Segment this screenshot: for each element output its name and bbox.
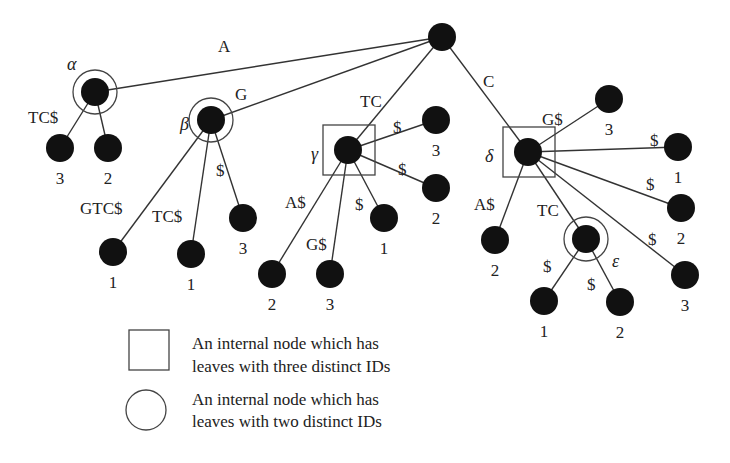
leaf-edge-label: $ bbox=[393, 118, 402, 137]
leaf-id-label: 1 bbox=[109, 273, 118, 292]
edge-delta bbox=[442, 37, 528, 152]
legend-square-icon bbox=[129, 330, 169, 370]
leaf-edge-label: $ bbox=[587, 275, 596, 294]
leaf-id-label: 1 bbox=[540, 322, 549, 341]
leaf-node bbox=[422, 106, 450, 134]
internal-node-gamma bbox=[334, 136, 362, 164]
leaf-id-label: 2 bbox=[616, 323, 625, 342]
greek-label-epsilon: ε bbox=[612, 251, 620, 271]
leaf-id-label: 2 bbox=[104, 169, 113, 188]
leaf-node bbox=[177, 240, 205, 268]
leaf-id-label: 3 bbox=[681, 296, 690, 315]
leaf-id-label: 2 bbox=[268, 295, 277, 314]
edge-epsilon bbox=[528, 152, 586, 239]
edge-alpha bbox=[95, 37, 442, 92]
leaf-edge-label: G$ bbox=[542, 110, 563, 129]
leaf-node bbox=[316, 260, 344, 288]
leaf-edge-label: $ bbox=[398, 160, 407, 179]
leaf-node bbox=[671, 261, 699, 289]
leaf-edge-label: TC$ bbox=[152, 207, 182, 226]
leaf-id-label: 2 bbox=[491, 261, 500, 280]
legend-circle-icon bbox=[126, 390, 166, 430]
suffix-tree-diagram: AGTCCTCTC$32GTC$1TC$1$3$3$2$1A$2G$3G$3$1… bbox=[0, 0, 730, 463]
greek-label-gamma: γ bbox=[311, 144, 319, 164]
leaf-node bbox=[46, 134, 74, 162]
labels: AGTCCTCTC$32GTC$1TC$1$3$3$2$1A$2G$3G$3$1… bbox=[28, 37, 689, 342]
leaf-node bbox=[422, 174, 450, 202]
legend-square-label-line1: An internal node which has bbox=[192, 334, 379, 353]
leaf-node bbox=[258, 260, 286, 288]
leaf-id-label: 2 bbox=[677, 229, 686, 248]
edge-label-beta: G bbox=[235, 85, 247, 104]
edge-leaf bbox=[272, 150, 348, 274]
leaf-id-label: 2 bbox=[432, 209, 441, 228]
edge-leaf bbox=[528, 152, 681, 208]
internal-node-epsilon bbox=[572, 225, 600, 253]
leaf-edge-label: $ bbox=[650, 131, 659, 150]
leaf-edge-label: GTC$ bbox=[80, 199, 123, 218]
edge-leaf bbox=[348, 150, 436, 188]
greek-label-alpha: α bbox=[67, 54, 77, 74]
leaf-node bbox=[99, 238, 127, 266]
leaf-id-label: 3 bbox=[56, 169, 65, 188]
edge-label-epsilon: TC bbox=[537, 201, 559, 220]
leaf-edge-label: A$ bbox=[474, 195, 495, 214]
edge-leaf bbox=[330, 150, 348, 274]
edges bbox=[60, 37, 685, 302]
internal-node-alpha bbox=[81, 78, 109, 106]
leaf-edge-label: $ bbox=[216, 161, 225, 180]
greek-label-beta: β bbox=[179, 114, 189, 134]
leaf-id-label: 3 bbox=[432, 141, 441, 160]
leaf-node bbox=[606, 288, 634, 316]
leaf-id-label: 3 bbox=[605, 120, 614, 139]
leaf-edge-label: A$ bbox=[285, 193, 306, 212]
leaf-node bbox=[595, 85, 623, 113]
legend-square-label-line2: leaves with three distinct IDs bbox=[192, 357, 390, 376]
root-node bbox=[428, 23, 456, 51]
edge-leaf bbox=[113, 120, 211, 252]
nodes bbox=[46, 23, 699, 316]
leaf-node bbox=[481, 226, 509, 254]
internal-node-delta bbox=[514, 138, 542, 166]
leaf-node bbox=[530, 287, 558, 315]
leaf-id-label: 1 bbox=[187, 275, 196, 294]
greek-label-delta: δ bbox=[485, 146, 494, 166]
leaf-edge-label: TC$ bbox=[28, 108, 58, 127]
leaf-id-label: 3 bbox=[239, 239, 248, 258]
edge-label-alpha: A bbox=[218, 37, 231, 56]
leaf-node bbox=[664, 133, 692, 161]
legend-circle-label-line2: leaves with two distinct IDs bbox=[192, 412, 382, 431]
edge-label-gamma: TC bbox=[360, 92, 382, 111]
legend: An internal node which has leaves with t… bbox=[126, 330, 390, 431]
edge-leaf bbox=[495, 152, 528, 240]
edge-label-delta: C bbox=[483, 72, 494, 91]
leaf-id-label: 1 bbox=[674, 168, 683, 187]
legend-circle-label-line1: An internal node which has bbox=[192, 390, 379, 409]
leaf-edge-label: $ bbox=[543, 257, 552, 276]
leaf-edge-label: G$ bbox=[306, 235, 327, 254]
leaf-edge-label: $ bbox=[355, 195, 364, 214]
leaf-node bbox=[667, 194, 695, 222]
leaf-id-label: 3 bbox=[326, 295, 335, 314]
internal-node-beta bbox=[197, 106, 225, 134]
edge-leaf bbox=[528, 99, 609, 152]
leaf-edge-label: $ bbox=[646, 175, 655, 194]
leaf-node bbox=[370, 204, 398, 232]
leaf-node bbox=[229, 204, 257, 232]
leaf-edge-label: $ bbox=[648, 230, 657, 249]
leaf-id-label: 1 bbox=[380, 239, 389, 258]
leaf-node bbox=[94, 134, 122, 162]
